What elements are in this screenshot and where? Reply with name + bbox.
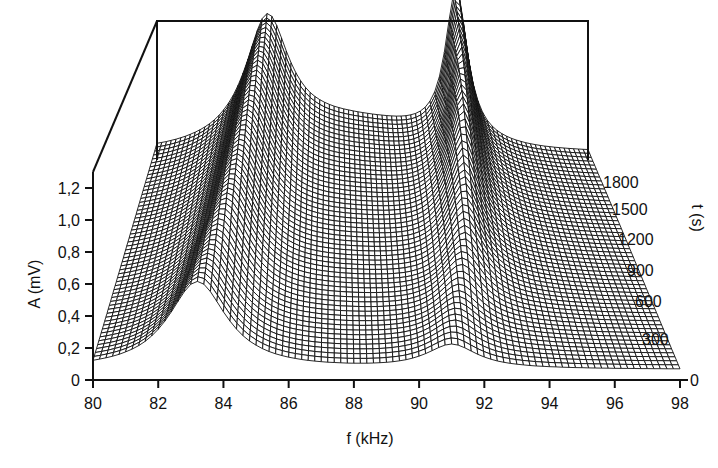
- t-tick-label: 1500: [612, 201, 648, 218]
- t-tick-label: 600: [635, 293, 662, 310]
- t-axis-title: t (s): [689, 204, 706, 232]
- t-tick-label: 0: [690, 372, 699, 389]
- y-tick-label: 0,8: [58, 244, 80, 261]
- x-tick-label: 84: [215, 395, 233, 412]
- x-tick-label: 88: [345, 395, 363, 412]
- t-tick-label: 900: [627, 262, 654, 279]
- y-axis-ticks: 00,20,40,60,81,01,2: [58, 180, 93, 389]
- y-tick-label: 0: [71, 372, 80, 389]
- x-tick-label: 92: [475, 395, 493, 412]
- x-tick-label: 82: [149, 395, 167, 412]
- t-tick-label: 1200: [618, 231, 654, 248]
- y-tick-label: 0,6: [58, 276, 80, 293]
- left-diagonal-edge: [93, 21, 157, 172]
- x-axis-title: f (kHz): [346, 430, 393, 447]
- x-tick-label: 86: [280, 395, 298, 412]
- x-tick-label: 96: [606, 395, 624, 412]
- y-tick-label: 1,2: [58, 180, 80, 197]
- x-tick-label: 90: [410, 395, 428, 412]
- y-tick-label: 0,2: [58, 340, 80, 357]
- y-axis-title: A (mV): [26, 260, 43, 309]
- y-tick-label: 1,0: [58, 212, 80, 229]
- wireframe-surface: [93, 0, 680, 369]
- x-tick-label: 98: [671, 395, 689, 412]
- t-tick-label: 300: [642, 331, 669, 348]
- x-tick-label: 94: [541, 395, 559, 412]
- surface-chart: 80828486889092949698 00,20,40,60,81,01,2…: [0, 0, 718, 468]
- t-tick-label: 1800: [603, 174, 639, 191]
- x-axis-ticks: 80828486889092949698: [84, 380, 689, 412]
- y-tick-label: 0,4: [58, 308, 80, 325]
- x-tick-label: 80: [84, 395, 102, 412]
